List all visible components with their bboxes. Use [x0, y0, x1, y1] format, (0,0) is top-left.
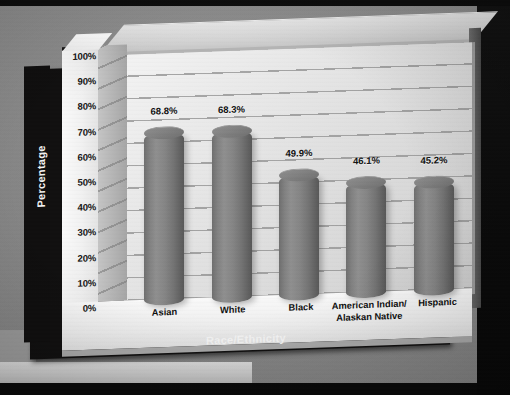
- bar: 68.3%: [212, 50, 252, 303]
- y-axis-tick-label: 40%: [78, 201, 96, 213]
- y-axis-tick-label: 70%: [78, 126, 96, 138]
- y-axis-tick-label: 50%: [78, 176, 96, 188]
- y-axis-tick-label: 10%: [78, 277, 96, 289]
- bar: 68.8%: [144, 53, 184, 306]
- bottom-dark-strip: [0, 383, 510, 395]
- y-axis-tick-label: 20%: [78, 252, 96, 264]
- bar-cylinder: [144, 131, 184, 306]
- y-axis-tick-label: 90%: [78, 75, 96, 87]
- y-axis-tick-label: 80%: [78, 101, 96, 113]
- bar-value-label: 45.2%: [420, 154, 447, 166]
- x-axis-category-label: Asian: [152, 307, 177, 319]
- bar-value-label: 68.8%: [151, 104, 178, 116]
- x-axis-category-label: American Indian/Alaskan Native: [332, 299, 407, 325]
- bar: 49.9%: [279, 48, 319, 301]
- bar-cylinder: [279, 174, 319, 301]
- x-axis-category-label: Black: [289, 302, 314, 314]
- bars-area: 68.8%68.3%49.9%46.1%45.2%: [126, 42, 472, 306]
- bottom-light-strip: [0, 362, 252, 383]
- bar-cylinder: [414, 181, 454, 296]
- bar-cylinder: [346, 181, 386, 299]
- y-axis-tick-label: 0%: [83, 302, 96, 313]
- top-dark-strip: [0, 0, 510, 6]
- y-axis-tick-label: 60%: [78, 151, 96, 163]
- y-axis-ticks: 0%10%20%30%40%50%60%70%80%90%100%: [56, 56, 98, 310]
- y-axis-tick-label: 100%: [73, 50, 97, 62]
- x-axis-category-label: White: [220, 304, 245, 316]
- y-axis-tick-label: 30%: [78, 227, 96, 239]
- chart-3d-body: 0%10%20%30%40%50%60%70%80%90%100% 68.8%6…: [36, 6, 472, 352]
- bar-cylinder: [212, 130, 252, 304]
- plot-left-side-wall: [96, 45, 127, 302]
- bar-value-label: 68.3%: [218, 103, 245, 115]
- bar: 46.1%: [346, 45, 386, 298]
- bar: 45.2%: [414, 43, 454, 296]
- bar-value-label: 49.9%: [286, 147, 313, 159]
- bar-value-label: 46.1%: [353, 154, 380, 166]
- right-dark-panel: [477, 6, 510, 395]
- chart-screenshot: Percentage 0%10%20%30%40%50%60%70%80%90%…: [0, 0, 510, 395]
- x-axis-category-label: Hispanic: [418, 297, 457, 310]
